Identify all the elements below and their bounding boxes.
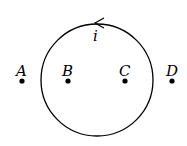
current-loop-diagram: i A B C D bbox=[0, 0, 187, 146]
point-c-label: C bbox=[119, 62, 131, 80]
current-label: i bbox=[93, 27, 98, 45]
point-b: B bbox=[61, 62, 73, 84]
point-a: A bbox=[14, 62, 27, 84]
point-c: C bbox=[119, 62, 131, 84]
point-b-label: B bbox=[61, 62, 73, 80]
point-d: D bbox=[165, 62, 178, 84]
point-d-label: D bbox=[165, 62, 178, 80]
point-a-label: A bbox=[14, 62, 27, 80]
